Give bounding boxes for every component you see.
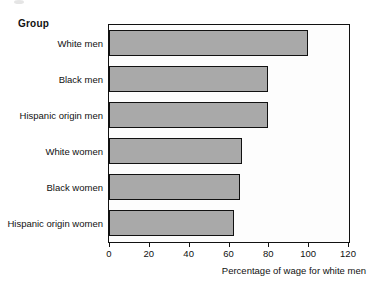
- x-axis-tick-label: 0: [106, 248, 111, 259]
- x-axis-tick-label: 100: [300, 248, 316, 259]
- x-axis-tick: [229, 242, 230, 247]
- bar: [109, 66, 268, 92]
- x-axis-tick: [308, 242, 309, 247]
- scan-artifact: [14, 0, 24, 4]
- bar-row: White men: [109, 30, 349, 56]
- chart-figure: Group White menBlack menHispanic origin …: [0, 0, 372, 285]
- category-label: Black women: [47, 182, 104, 193]
- category-label: Hispanic origin men: [20, 110, 103, 121]
- x-axis-tick: [189, 242, 190, 247]
- category-label: White women: [45, 146, 103, 157]
- bar: [109, 138, 242, 164]
- category-label: White men: [58, 38, 103, 49]
- bar: [109, 174, 240, 200]
- x-axis-tick-label: 80: [263, 248, 274, 259]
- bar: [109, 30, 308, 56]
- bar-row: Hispanic origin women: [109, 210, 349, 236]
- x-axis-tick: [348, 242, 349, 247]
- bar-row: White women: [109, 138, 349, 164]
- x-axis-title: Percentage of wage for white men: [0, 265, 366, 276]
- x-axis-tick-label: 120: [340, 248, 356, 259]
- bar: [109, 102, 268, 128]
- x-axis-tick-label: 20: [144, 248, 155, 259]
- bar: [109, 210, 234, 236]
- y-axis-title: Group: [18, 18, 49, 29]
- bar-row: Hispanic origin men: [109, 102, 349, 128]
- bar-row: Black men: [109, 66, 349, 92]
- plot-area: White menBlack menHispanic origin menWhi…: [108, 24, 350, 243]
- x-axis-tick-label: 60: [223, 248, 234, 259]
- plot-inner: White menBlack menHispanic origin menWhi…: [109, 25, 349, 242]
- x-axis-tick: [149, 242, 150, 247]
- bar-row: Black women: [109, 174, 349, 200]
- x-axis-tick: [109, 242, 110, 247]
- category-label: Hispanic origin women: [7, 218, 103, 229]
- category-label: Black men: [59, 74, 103, 85]
- x-axis-tick-label: 40: [183, 248, 194, 259]
- x-axis-tick: [268, 242, 269, 247]
